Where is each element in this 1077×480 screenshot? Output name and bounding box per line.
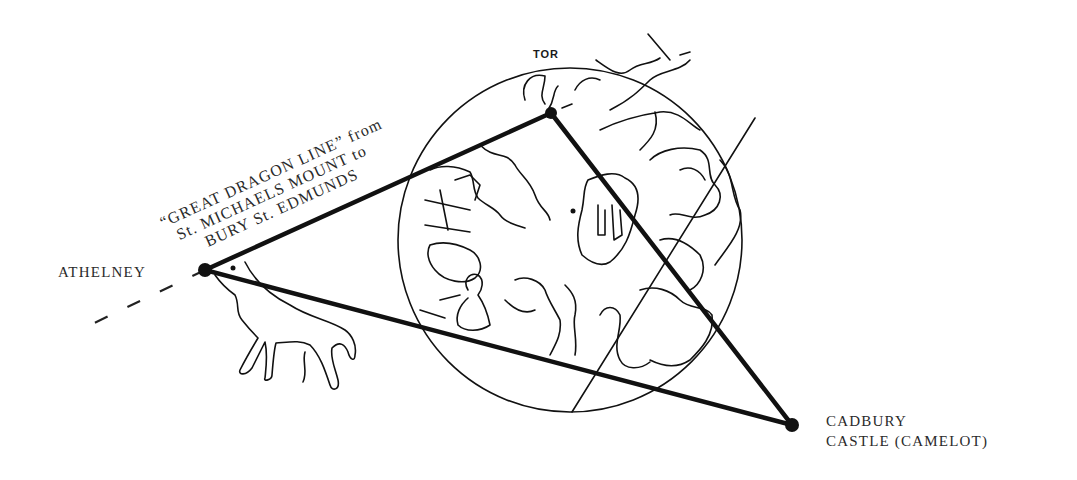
crossing-line-upper (648, 34, 690, 60)
zodiac-diagram: ATHELNEY TOR CADBURY CASTLE (CAMELOT) “G… (0, 0, 1077, 480)
tor-label: TOR (533, 48, 559, 60)
athelney-label: ATHELNEY (58, 264, 146, 280)
cadbury-label-line1: CADBURY (826, 413, 907, 429)
cadbury-point (785, 418, 799, 432)
athelney-point (198, 263, 212, 277)
dragon-line-caption: “GREAT DRAGON LINE” from St. MICHAELS MO… (157, 115, 399, 264)
animal-eye-icon (231, 266, 236, 271)
tor-point (545, 107, 557, 119)
zodiac-figures (420, 58, 741, 368)
svg-text:St. MICHAELS MOUNT to: St. MICHAELS MOUNT to (174, 142, 370, 243)
cadbury-label-line2: CASTLE (CAMELOT) (826, 433, 988, 450)
animal-figure (215, 262, 355, 389)
animal-leg (303, 352, 305, 382)
